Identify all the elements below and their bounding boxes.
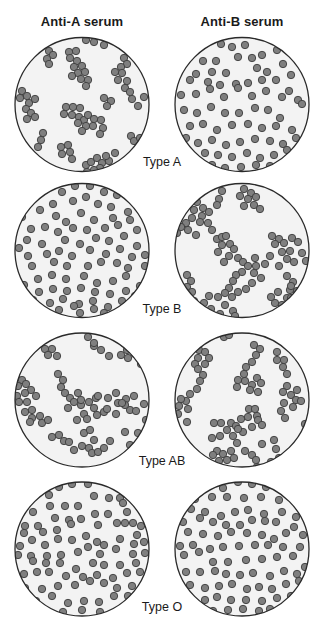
red-blood-cell (273, 356, 280, 363)
red-blood-cell (60, 110, 67, 117)
red-blood-cell (39, 528, 46, 535)
red-blood-cell (267, 293, 274, 300)
red-blood-cell (113, 519, 120, 526)
red-blood-cell (270, 436, 277, 443)
red-blood-cell (240, 494, 247, 501)
red-blood-cell (184, 405, 191, 412)
red-blood-cell (62, 103, 69, 110)
red-blood-cell (250, 269, 257, 276)
red-blood-cell (236, 138, 243, 145)
red-blood-cell (43, 552, 50, 559)
red-blood-cell (124, 208, 131, 215)
red-blood-cell (280, 567, 287, 574)
red-blood-cell (76, 104, 83, 111)
red-blood-cell (188, 214, 195, 221)
red-blood-cell (141, 353, 148, 360)
red-blood-cell (227, 447, 234, 454)
red-blood-cell (283, 370, 290, 377)
red-blood-cell (272, 122, 279, 129)
red-blood-cell (290, 258, 297, 265)
red-blood-cell (80, 272, 87, 279)
red-blood-cell (186, 390, 193, 397)
red-blood-cell (196, 568, 203, 575)
red-blood-cell (184, 226, 191, 233)
red-blood-cell (196, 377, 203, 384)
red-blood-cell (62, 275, 69, 282)
red-blood-cell (82, 82, 89, 89)
red-blood-cell (101, 224, 108, 231)
red-blood-cell (296, 543, 303, 550)
red-blood-cell (240, 370, 247, 377)
red-blood-cell (12, 152, 19, 159)
red-blood-cell (236, 521, 243, 528)
red-blood-cell (237, 415, 244, 422)
red-blood-cell (68, 536, 75, 543)
red-blood-cell (78, 127, 85, 134)
red-blood-cell (251, 541, 258, 548)
red-blood-cell (251, 254, 258, 261)
red-blood-cell (104, 394, 111, 401)
red-blood-cell (143, 344, 150, 351)
red-blood-cell (90, 404, 97, 411)
red-blood-cell (241, 41, 248, 48)
dish-type-o-anti-b (175, 478, 309, 616)
red-blood-cell (29, 557, 36, 564)
red-blood-cell (220, 93, 227, 100)
red-blood-cell (231, 508, 238, 515)
red-blood-cell (112, 545, 119, 552)
red-blood-cell (24, 252, 31, 259)
red-blood-cell (288, 126, 295, 133)
red-blood-cell (175, 402, 182, 409)
red-blood-cell (287, 71, 294, 78)
red-blood-cell (16, 94, 23, 101)
red-blood-cell (279, 543, 286, 550)
red-blood-cell (133, 226, 140, 233)
red-blood-cell (273, 553, 280, 560)
red-blood-cell (84, 262, 91, 269)
red-blood-cell (283, 255, 290, 262)
red-blood-cell (258, 597, 265, 604)
red-blood-cell (230, 454, 237, 461)
red-blood-cell (93, 571, 100, 578)
red-blood-cell (279, 363, 286, 370)
red-blood-cell (234, 376, 241, 383)
red-blood-cell (239, 605, 246, 612)
red-blood-cell (70, 302, 77, 309)
red-blood-cell (207, 103, 214, 110)
red-blood-cell (130, 540, 137, 547)
red-blood-cell (68, 252, 75, 259)
red-blood-cell (96, 550, 103, 557)
red-blood-cell (244, 262, 251, 269)
red-blood-cell (182, 568, 189, 575)
red-blood-cell (82, 193, 89, 200)
red-blood-cell (129, 519, 136, 526)
red-blood-cell (289, 552, 296, 559)
red-blood-cell (77, 209, 84, 216)
red-blood-cell (236, 192, 243, 199)
red-blood-cell (74, 502, 81, 509)
red-blood-cell (268, 232, 275, 239)
red-blood-cell (89, 559, 96, 566)
red-blood-cell (45, 568, 52, 575)
red-blood-cell (107, 203, 114, 210)
red-blood-cell (282, 580, 289, 587)
red-blood-cell (258, 51, 265, 58)
red-blood-cell (70, 398, 77, 405)
red-blood-cell (74, 119, 81, 126)
red-blood-cell (124, 264, 131, 271)
red-blood-cell (48, 433, 55, 440)
red-blood-cell (72, 47, 79, 54)
red-blood-cell (229, 432, 236, 439)
red-blood-cell (90, 115, 97, 122)
red-blood-cell (241, 377, 248, 384)
red-blood-cell (215, 582, 222, 589)
dish-type-o-anti-a (14, 480, 149, 616)
red-blood-cell (218, 187, 225, 194)
red-blood-cell (289, 403, 296, 410)
red-blood-cell (217, 419, 224, 426)
red-blood-cell (177, 91, 184, 98)
red-blood-cell (78, 606, 85, 613)
red-blood-cell (83, 226, 90, 233)
red-blood-cell (209, 558, 216, 565)
red-blood-cell (84, 480, 91, 487)
